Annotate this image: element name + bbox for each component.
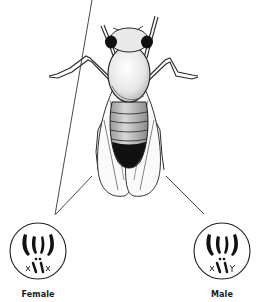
thorax [108,46,150,102]
male-label: Male [198,290,246,299]
male-karyotype [194,223,250,279]
left-eye [105,36,117,49]
female-label: Female [14,290,62,299]
diagram-canvas: Female Male [0,0,258,302]
right-eye [141,36,153,49]
fly-illustration [0,0,258,302]
female-connector-line [55,0,92,215]
male-connector-line [166,176,204,214]
female-karyotype [10,223,66,279]
abdomen [110,102,148,168]
head [105,28,153,52]
female-circle [10,223,66,279]
male-circle [194,223,250,279]
